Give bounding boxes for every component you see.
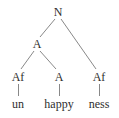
node-root-n: N xyxy=(54,6,63,18)
node-suffix-af: Af xyxy=(93,71,106,83)
node-prefix-af: Af xyxy=(12,71,25,83)
morphology-tree: N A Af A Af un happy ness xyxy=(0,0,119,118)
leaf-happy: happy xyxy=(44,98,73,110)
node-adjective-a: A xyxy=(33,38,42,50)
leaf-un: un xyxy=(12,98,24,110)
leaf-ness: ness xyxy=(89,98,110,110)
edge-a-af-prefix xyxy=(21,51,34,69)
edge-n-a xyxy=(40,19,55,37)
edge-a-a-stem xyxy=(40,51,56,69)
node-stem-a: A xyxy=(55,71,64,83)
edge-n-af-suffix xyxy=(61,19,96,69)
